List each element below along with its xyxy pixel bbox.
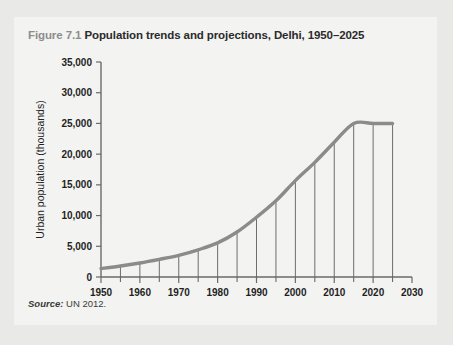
y-tick-label: 0 (86, 272, 92, 283)
source-note: Source: UN 2012. (28, 298, 106, 309)
x-tick-label: 1960 (129, 287, 152, 298)
source-value: UN 2012. (63, 298, 106, 309)
y-axis: 05,00010,00015,00020,00025,00030,00035,0… (61, 57, 101, 283)
y-tick-label: 10,000 (61, 210, 92, 221)
x-tick-label: 2010 (323, 287, 346, 298)
series-curve (101, 122, 393, 269)
population-line-chart: 05,00010,00015,00020,00025,00030,00035,0… (14, 17, 437, 325)
y-tick-label: 35,000 (61, 57, 92, 68)
x-tick-label: 1970 (168, 287, 191, 298)
y-tick-label: 5,000 (67, 241, 92, 252)
x-tick-label: 2000 (284, 287, 307, 298)
x-tick-label: 1980 (207, 287, 230, 298)
x-tick-label: 1950 (90, 287, 113, 298)
drop-lines (120, 123, 392, 277)
y-axis-title-label: Urban population (thousands) (34, 100, 46, 238)
figure-panel: Figure 7.1 Population trends and project… (14, 17, 437, 325)
x-tick-label: 2020 (362, 287, 385, 298)
y-axis-title: Urban population (thousands) (34, 100, 46, 238)
x-tick-label: 1990 (245, 287, 268, 298)
y-tick-label: 25,000 (61, 118, 92, 129)
page-background: Figure 7.1 Population trends and project… (0, 0, 453, 345)
x-axis: 195019601970198019902000201020202030 (90, 277, 424, 298)
population-curve (101, 122, 393, 269)
y-tick-label: 20,000 (61, 149, 92, 160)
y-tick-label: 30,000 (61, 87, 92, 98)
y-tick-label: 15,000 (61, 179, 92, 190)
source-label: Source: (28, 298, 63, 309)
x-tick-label: 2030 (401, 287, 424, 298)
